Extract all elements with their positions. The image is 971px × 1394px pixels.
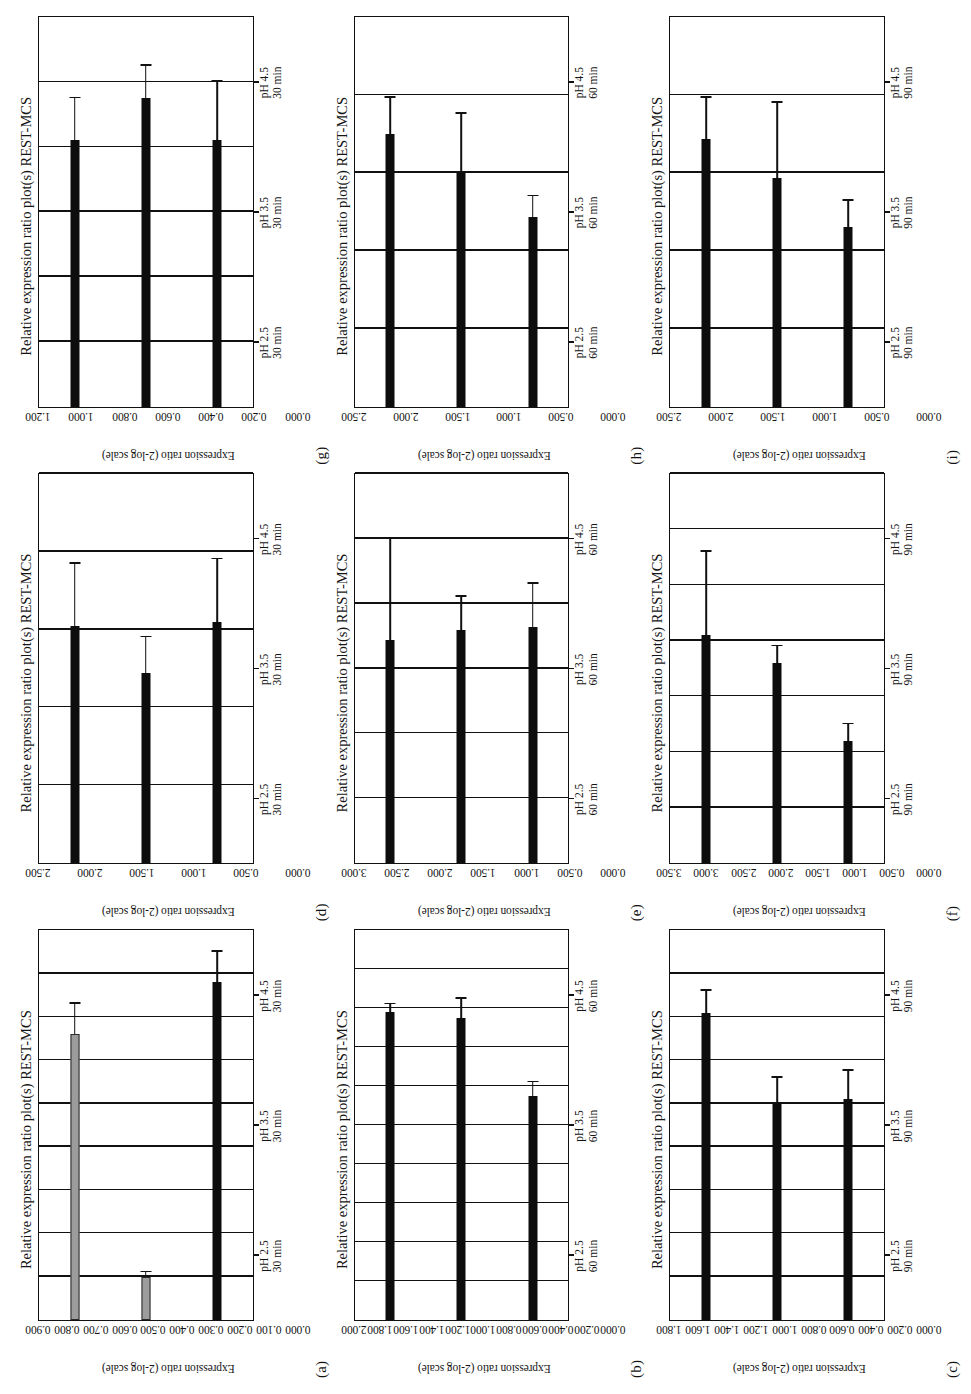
gridline xyxy=(39,972,253,973)
error-bar-line xyxy=(145,1272,147,1276)
plot-frame xyxy=(354,473,570,865)
error-bar-line xyxy=(216,82,218,140)
category-label-line: pH 2.5 xyxy=(573,784,585,815)
y-tick-label: 0.400 xyxy=(549,1324,574,1336)
category-tick xyxy=(254,538,259,540)
y-tick-label: 1.400 xyxy=(715,1324,740,1336)
category-label-line: pH 4.5 xyxy=(573,524,585,555)
category-label: pH 4.530 min xyxy=(258,523,284,555)
error-bar-cap xyxy=(700,96,711,98)
y-axis-title: Expression ratio (2-log scale) xyxy=(669,448,929,463)
y-tick-label: 1.500 xyxy=(471,867,496,879)
figure-rotated-page: (a)Relative expression ratio plot(s) RES… xyxy=(0,0,971,1394)
error-bar-line xyxy=(461,114,463,173)
error-bar-line xyxy=(705,991,707,1013)
error-bar-cap xyxy=(385,537,396,539)
error-bar-line xyxy=(848,1071,850,1099)
bar xyxy=(528,217,537,407)
chart-title: Relative expression ratio plot(s) REST-M… xyxy=(649,929,666,1350)
category-label: pH 4.560 min xyxy=(573,523,599,555)
category-label-line: 30 min xyxy=(271,1110,283,1142)
category-tick xyxy=(569,994,574,996)
gridline xyxy=(355,968,569,969)
error-bar-cap xyxy=(527,195,538,197)
gridline xyxy=(355,472,569,473)
y-axis-title: Expression ratio (2-log scale) xyxy=(354,1361,614,1376)
panel-letter: (b) xyxy=(628,1360,645,1378)
bar xyxy=(773,663,782,863)
category-label-line: 30 min xyxy=(271,783,283,815)
panel-letter: (c) xyxy=(944,1361,961,1378)
category-tick xyxy=(569,211,574,213)
error-bar-line xyxy=(145,637,147,673)
chart-area: Expression ratio (2-log scale)0.0000.100… xyxy=(38,929,298,1376)
bar xyxy=(70,140,79,406)
y-tick-label: 0.600 xyxy=(112,1324,137,1336)
error-bar-cap xyxy=(843,1069,854,1071)
category-label-line: pH 3.5 xyxy=(258,197,270,228)
panel-letter: (d) xyxy=(313,903,330,921)
y-tick-label: 0.500 xyxy=(879,867,904,879)
error-bar-cap xyxy=(69,1002,80,1004)
panel-letter: (g) xyxy=(313,447,330,465)
error-bar-cap xyxy=(843,199,854,201)
bar xyxy=(457,630,466,864)
plot-frame xyxy=(38,929,254,1321)
chart-area: Expression ratio (2-log scale)0.0000.500… xyxy=(354,473,614,920)
y-tick-label: 0.600 xyxy=(155,411,180,423)
chart-title: Relative expression ratio plot(s) REST-M… xyxy=(334,473,351,894)
category-label-line: pH 2.5 xyxy=(573,1240,585,1271)
category-tick xyxy=(569,341,574,343)
y-tick-label: 1.600 xyxy=(393,1324,418,1336)
category-label-line: 90 min xyxy=(902,67,914,99)
y-tick-label: 0.200 xyxy=(575,1324,600,1336)
category-label-line: 60 min xyxy=(587,653,599,685)
bar xyxy=(386,640,395,863)
y-tick-label: 1.500 xyxy=(805,867,830,879)
category-label: pH 3.560 min xyxy=(573,1110,599,1142)
error-bar-line xyxy=(74,98,76,140)
y-tick-label: 0.000 xyxy=(601,1324,626,1336)
bar xyxy=(213,622,222,864)
y-tick-label: 3.500 xyxy=(657,867,682,879)
gridline xyxy=(670,584,884,585)
error-bar-line xyxy=(389,539,391,640)
category-axis: pH 4.530 minpH 3.530 minpH 2.530 min xyxy=(254,473,298,865)
error-bar-line xyxy=(705,552,707,636)
gridline xyxy=(670,472,884,473)
bar xyxy=(701,139,710,407)
y-tick-label: 1.000 xyxy=(772,1324,797,1336)
error-bar-line xyxy=(532,196,534,216)
chart-area: Expression ratio (2-log scale)0.0000.500… xyxy=(38,473,298,920)
category-tick xyxy=(885,1124,890,1126)
category-label: pH 4.560 min xyxy=(573,67,599,99)
category-label-line: pH 2.5 xyxy=(258,784,270,815)
y-tick-label: 0.200 xyxy=(228,1324,253,1336)
category-axis: pH 4.590 minpH 3.590 minpH 2.590 min xyxy=(885,473,929,865)
category-label: pH 4.590 min xyxy=(889,980,915,1012)
category-label: pH 2.590 min xyxy=(889,327,915,359)
panel-letter: (h) xyxy=(628,447,645,465)
error-bar-cap xyxy=(772,101,783,103)
y-tick-label: 1.500 xyxy=(129,867,154,879)
y-axis-tick-labels: 0.0000.5001.0001.5002.0002.500 xyxy=(38,864,298,904)
bar xyxy=(528,1096,537,1320)
category-axis: pH 4.560 minpH 3.560 minpH 2.560 min xyxy=(569,473,613,865)
chart-panel-d: (d)Relative expression ratio plot(s) RES… xyxy=(16,467,332,924)
chart-title: Relative expression ratio plot(s) REST-M… xyxy=(18,929,35,1350)
error-bar-cap xyxy=(456,595,467,597)
chart-panel-f: (f)Relative expression ratio plot(s) RES… xyxy=(647,467,963,924)
category-label-line: pH 3.5 xyxy=(573,1110,585,1141)
error-bar-cap xyxy=(843,723,854,725)
y-axis-tick-labels: 0.0000.2000.4000.6000.8001.0001.2001.400… xyxy=(669,1321,929,1361)
category-label-line: pH 4.5 xyxy=(258,980,270,1011)
chart-area: Expression ratio (2-log scale)0.0000.500… xyxy=(669,473,929,920)
category-tick xyxy=(569,1124,574,1126)
category-label-line: 30 min xyxy=(271,523,283,555)
panel-letter: (f) xyxy=(944,906,961,922)
category-axis: pH 4.590 minpH 3.590 minpH 2.590 min xyxy=(885,929,929,1321)
plot-wrapper: pH 4.590 minpH 3.590 minpH 2.590 min xyxy=(669,16,929,408)
y-axis-tick-labels: 0.0000.1000.2000.3000.4000.5000.6000.700… xyxy=(38,1321,298,1361)
error-bar-line xyxy=(461,999,463,1018)
category-tick xyxy=(569,538,574,540)
